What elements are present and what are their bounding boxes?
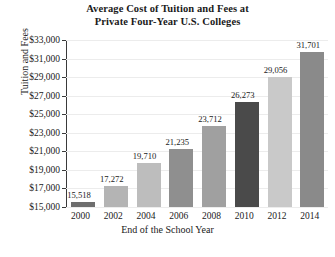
bar — [137, 163, 161, 207]
bar-value-label: 23,712 — [192, 114, 228, 124]
bar — [104, 186, 128, 207]
bar-slot: 31,701 — [296, 40, 329, 207]
gridline — [66, 207, 328, 208]
bar-value-label: 31,701 — [290, 40, 326, 50]
x-tick-label: 2002 — [97, 211, 130, 221]
y-tick-mark — [62, 40, 66, 41]
plot-area: $33,000$31,000$29,000$27,000$25,000$23,0… — [66, 40, 328, 207]
y-tick-label: $15,000 — [29, 202, 60, 212]
y-tick-label: $33,000 — [29, 35, 60, 45]
y-tick-mark — [62, 170, 66, 171]
y-tick-label: $17,000 — [29, 183, 60, 193]
bar-value-label: 29,056 — [258, 65, 294, 75]
y-tick-label: $29,000 — [29, 72, 60, 82]
bar-series: 15,51817,27219,71021,23523,71226,27329,0… — [67, 40, 328, 207]
y-tick-label: $19,000 — [29, 165, 60, 175]
bar-slot: 29,056 — [264, 40, 297, 207]
y-tick-mark — [62, 77, 66, 78]
y-tick-mark — [62, 133, 66, 134]
y-tick-label: $27,000 — [29, 91, 60, 101]
bar — [169, 149, 193, 207]
y-tick-label: $21,000 — [29, 146, 60, 156]
bar — [300, 52, 324, 207]
x-tick-label: 2010 — [228, 211, 261, 221]
y-tick-label: $31,000 — [29, 54, 60, 64]
y-tick-mark — [62, 207, 66, 208]
bar-value-label: 15,518 — [61, 190, 97, 200]
y-tick-mark — [62, 59, 66, 60]
bar-value-label: 17,272 — [94, 174, 130, 184]
bar-value-label: 26,273 — [225, 90, 261, 100]
x-axis-title: End of the School Year — [0, 224, 335, 235]
chart-title-line-2: Private Four-Year U.S. Colleges — [0, 16, 335, 29]
chart-title: Average Cost of Tuition and Fees at Priv… — [0, 3, 335, 28]
x-tick-label: 2000 — [64, 211, 97, 221]
y-tick-label: $23,000 — [29, 128, 60, 138]
bar-value-label: 21,235 — [159, 137, 195, 147]
y-tick-mark — [62, 151, 66, 152]
y-tick-label: $25,000 — [29, 109, 60, 119]
bar-slot: 23,712 — [198, 40, 231, 207]
bar — [235, 102, 259, 207]
bar-chart: Average Cost of Tuition and Fees at Priv… — [0, 0, 335, 257]
bar — [268, 77, 292, 207]
chart-title-line-1: Average Cost of Tuition and Fees at — [0, 3, 335, 16]
x-tick-label: 2014 — [293, 211, 326, 221]
x-tick-label: 2004 — [130, 211, 163, 221]
y-axis-title: Tuition and Fees — [19, 0, 30, 127]
y-tick-mark — [62, 96, 66, 97]
y-tick-mark — [62, 114, 66, 115]
bar-value-label: 19,710 — [127, 151, 163, 161]
x-tick-label: 2006 — [162, 211, 195, 221]
x-tick-label: 2008 — [195, 211, 228, 221]
x-tick-label: 2012 — [261, 211, 294, 221]
bar-slot: 17,272 — [100, 40, 133, 207]
bar-slot: 19,710 — [133, 40, 166, 207]
bar — [202, 126, 226, 207]
bar — [71, 202, 95, 207]
